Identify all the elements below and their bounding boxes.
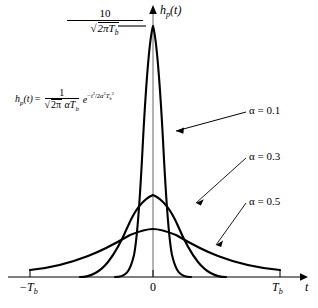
y-axis-arrowhead bbox=[149, 5, 157, 14]
equation-fraction-numerator: 1 bbox=[59, 88, 64, 98]
equation-fraction-denominator: √2π αTb bbox=[45, 98, 79, 110]
annotation-alpha-0-3: α = 0.3 bbox=[249, 151, 280, 162]
x-tick-label-pos-tb-main: T bbox=[272, 280, 279, 294]
radical-sign: √ bbox=[91, 22, 97, 34]
x-tick-label-neg-tb-main: −T bbox=[19, 280, 34, 294]
equation-equals-sign: = bbox=[35, 94, 41, 104]
equation-lhs: hp(t) bbox=[15, 94, 33, 104]
x-axis-label: t bbox=[305, 281, 308, 293]
equation-exponential-term: e−t2/2α2Tb2 bbox=[83, 94, 114, 105]
annotation-alpha-0-1: α = 0.1 bbox=[249, 105, 280, 116]
radical-sign-equation: √ bbox=[45, 99, 51, 110]
leader-arrowhead-alpha-0-1 bbox=[176, 128, 184, 134]
annotation-alpha-equals-1: = bbox=[258, 150, 264, 162]
annotation-alpha-symbol-0: α bbox=[249, 104, 255, 116]
peak-amplitude-denominator-sub: b bbox=[115, 28, 119, 37]
annotation-alpha-value-1: 0.3 bbox=[266, 150, 280, 162]
curve-alpha-0-5 bbox=[30, 229, 280, 270]
pulse-shape-equation: hp(t) = 1 √2π αTb e−t2/2α2Tb2 bbox=[15, 88, 114, 110]
peak-amplitude-numerator: 10 bbox=[67, 8, 143, 20]
peak-amplitude-denominator: √2πTb bbox=[67, 20, 143, 34]
equation-fraction: 1 √2π αTb bbox=[45, 88, 79, 110]
peak-amplitude-label: 10 √2πTb bbox=[67, 8, 143, 34]
annotation-alpha-equals-0: = bbox=[258, 104, 264, 116]
annotation-alpha-symbol-1: α bbox=[249, 150, 255, 162]
leader-line-alpha-0-5 bbox=[216, 203, 246, 245]
x-tick-label-pos-tb: Tb bbox=[272, 281, 283, 293]
annotation-alpha-value-2: 0.5 bbox=[266, 195, 280, 207]
annotation-alpha-0-5: α = 0.5 bbox=[249, 196, 280, 207]
leader-line-alpha-0-3 bbox=[196, 158, 246, 203]
x-tick-label-neg-tb: −Tb bbox=[19, 281, 38, 293]
gaussian-pulse-figure: 10 √2πTb hp(t) hp(t) = 1 √2π αTb e−t2/2α… bbox=[0, 0, 318, 308]
x-tick-label-pos-tb-sub: b bbox=[279, 287, 283, 296]
peak-amplitude-denominator-radicand: 2πT bbox=[98, 22, 115, 34]
annotation-alpha-equals-2: = bbox=[258, 195, 264, 207]
leader-line-alpha-0-1 bbox=[176, 112, 246, 131]
y-axis-label: hp(t) bbox=[160, 4, 181, 16]
equation-exponent: −t2/2α2Tb2 bbox=[87, 92, 114, 99]
x-tick-label-zero: 0 bbox=[150, 281, 156, 293]
x-tick-label-neg-tb-sub: b bbox=[34, 287, 38, 296]
x-tick-label-zero-main: 0 bbox=[150, 280, 156, 294]
annotation-alpha-symbol-2: α bbox=[249, 195, 255, 207]
y-axis-label-arg: (t) bbox=[170, 3, 181, 17]
annotation-alpha-value-0: 0.1 bbox=[266, 104, 280, 116]
